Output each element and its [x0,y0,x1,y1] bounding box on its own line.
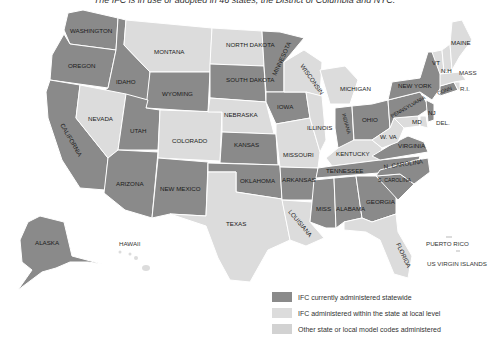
label-arizona: ARIZONA [116,180,144,187]
legend-item-local: IFC administered within the state at loc… [272,305,441,321]
territory-puerto-rico-shape[interactable] [446,236,452,238]
legend-item-statewide: IFC currently administered statewide [272,289,441,305]
label-arkansas: ARKANSAS [282,176,316,183]
label-rhode-island: R.I. [460,85,470,92]
label-vermont: VT [432,59,440,66]
label-illinois: ILLINOIS [307,124,332,131]
label-ohio: OHIO [362,116,378,123]
label-us-virgin-islands: US VIRGIN ISLANDS [427,260,487,267]
label-delaware: DEL. [436,119,450,126]
label-tennessee: TENNESSEE [326,167,363,174]
label-washington: WASHINGTON [70,27,112,34]
label-puerto-rico: PUERTO RICO [426,240,469,247]
label-colorado: COLORADO [172,137,208,144]
label-utah: UTAH [130,127,146,134]
state-mississippi[interactable] [310,178,336,228]
label-kentucky: KENTUCKY [336,150,370,157]
state-hawaii[interactable] [119,251,151,272]
legend-swatch-statewide [272,292,292,302]
label-oregon: OREGON [68,62,96,69]
state-kansas[interactable] [220,132,278,165]
label-michigan: MICHIGAN [340,85,371,92]
state-alaska[interactable] [18,216,102,290]
legend-label-local: IFC administered within the state at loc… [298,310,440,317]
label-iowa: IOWA [277,103,294,110]
map-legend: IFC currently administered statewide IFC… [272,289,441,337]
label-new-jersey: NJ [428,109,436,116]
label-north-dakota: NORTH DAKOTA [226,41,275,48]
label-alabama: ALABAMA [336,205,366,212]
label-south-carolina: S. CAROLINA [378,177,411,183]
label-virginia: VIRGINIA [398,142,426,149]
label-massachusetts: MASS [459,69,477,76]
label-montana: MONTANA [154,48,185,55]
label-mississippi: MISS [316,205,331,212]
label-georgia: GEORGIA [366,198,396,205]
label-maine: MAINE [451,39,471,46]
label-maryland: MD [412,118,422,125]
label-oklahoma: OKLAHOMA [240,177,276,184]
label-new-mexico: NEW MEXICO [160,185,201,192]
label-idaho: IDAHO [116,78,136,85]
label-texas: TEXAS [226,220,246,227]
label-hawaii: HAWAII [119,240,141,247]
state-colorado[interactable] [158,110,222,161]
legend-item-other: Other state or local model codes adminis… [272,321,441,337]
label-kansas: KANSAS [234,141,259,148]
label-south-dakota: SOUTH DAKOTA [226,76,275,83]
label-wyoming: WYOMING [162,90,193,97]
label-new-york: NEW YORK [398,82,432,89]
legend-swatch-other [272,324,292,334]
label-west-virginia: W. VA [380,133,398,140]
label-nebraska: NEBRASKA [224,111,259,118]
label-missouri: MISSOURI [283,151,314,158]
label-new-hampshire: N.H [441,67,452,74]
legend-label-statewide: IFC currently administered statewide [298,294,412,301]
label-alaska: ALASKA [35,239,60,246]
state-south-dakota[interactable] [210,64,266,102]
legend-label-other: Other state or local model codes adminis… [298,326,441,333]
label-nevada: NEVADA [88,115,114,122]
legend-swatch-local [272,308,292,318]
territory-usvi-shape[interactable] [456,250,460,252]
